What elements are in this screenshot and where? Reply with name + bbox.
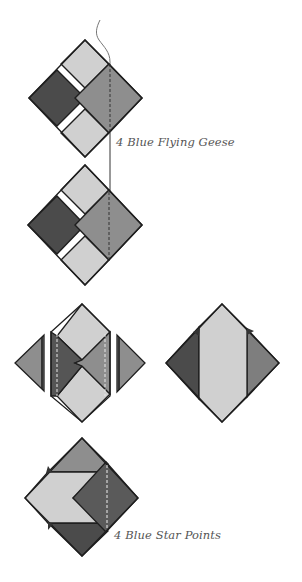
flying-geese-unit-2 [28, 165, 142, 285]
medium-right-triangle [247, 329, 279, 397]
flying-geese-label: 4 Blue Flying Geese [116, 135, 235, 149]
right-side-triangle [117, 335, 145, 392]
left-side-triangle [15, 335, 44, 391]
quilt-diagram [0, 0, 302, 582]
star-points-label: 4 Blue Star Points [114, 528, 221, 542]
trimmed-unit [15, 304, 145, 422]
dark-left-triangle [166, 327, 199, 399]
alternate-unit [166, 304, 279, 422]
